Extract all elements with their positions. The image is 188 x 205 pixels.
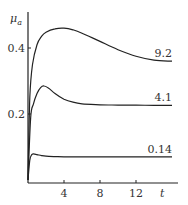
x-tick-label: 12 [129,187,143,200]
x-tick-label: 8 [97,187,104,200]
curve-0-14 [28,154,172,180]
y-axis-label: μa [10,12,22,27]
x-tick-label: 4 [61,187,68,200]
curve-label: 9.2 [155,47,173,60]
x-axis-label: t [160,187,165,200]
line-chart: 48120.20.4 9.24.10.14 μa t [0,0,188,205]
y-tick-label: 0.2 [8,108,26,121]
curve-label: 0.14 [148,143,173,156]
curve-4-1 [28,86,172,180]
y-tick-label: 0.4 [8,42,26,55]
curves: 9.24.10.14 [28,28,172,180]
curve-label: 4.1 [155,91,173,104]
